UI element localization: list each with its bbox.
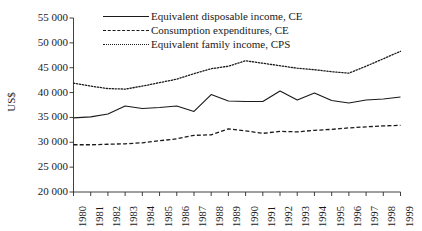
chart-figure: US$ 20 00025 00030 00035 00040 00045 000… (0, 0, 422, 231)
series-lines (74, 51, 401, 144)
plot-area (0, 0, 422, 231)
series-line-solid (74, 91, 401, 118)
series-line-dotted (74, 51, 401, 89)
series-line-dashed (74, 125, 401, 144)
axes (70, 18, 401, 196)
